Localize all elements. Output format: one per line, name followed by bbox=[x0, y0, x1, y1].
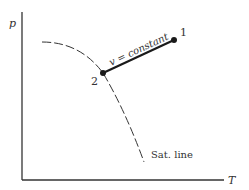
saturation-line-label: Sat. line bbox=[151, 149, 193, 160]
state-point-1-label: 1 bbox=[180, 26, 187, 39]
constant-volume-label: v = constant bbox=[107, 30, 171, 67]
x-axis-label: T bbox=[228, 174, 237, 187]
p-t-diagram: p T 1 2 v = constant Sat. line bbox=[0, 0, 249, 190]
diagram-svg: p T 1 2 v = constant Sat. line bbox=[0, 0, 249, 190]
state-point-1 bbox=[171, 37, 177, 43]
state-point-2 bbox=[100, 70, 106, 76]
y-axis-label: p bbox=[9, 17, 16, 30]
state-point-2-label: 2 bbox=[91, 75, 98, 88]
